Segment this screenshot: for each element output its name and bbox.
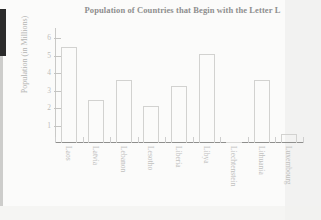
y-axis-label: Population (in Millions) bbox=[20, 0, 29, 115]
x-label-lesotho: Lesotho bbox=[147, 146, 155, 170]
x-label-lebanon: Lebanon bbox=[119, 146, 127, 172]
x-label-luxembourg: Luxembourg bbox=[285, 146, 293, 185]
x-label-laos: Laos bbox=[64, 146, 72, 161]
x-label-lithuania: Lithuania bbox=[257, 146, 265, 175]
bar-series bbox=[55, 28, 303, 143]
chart-canvas: Population of Countries that Begin with … bbox=[0, 0, 321, 220]
x-tick-9 bbox=[303, 137, 304, 143]
bar-lithuania bbox=[254, 80, 270, 143]
y-tick-label-6: 6 bbox=[40, 34, 51, 42]
y-tick-label-5: 5 bbox=[40, 52, 51, 60]
bar-lesotho bbox=[143, 106, 159, 143]
x-label-latvia: Latvia bbox=[92, 146, 100, 165]
bar-latvia bbox=[88, 100, 104, 143]
bar-luxembourg bbox=[281, 134, 297, 143]
bar-laos bbox=[61, 47, 77, 143]
y-tick-label-1: 1 bbox=[40, 122, 51, 130]
chart-title: Population of Countries that Begin with … bbox=[55, 5, 310, 15]
page-edge-light-strip bbox=[0, 56, 3, 206]
y-tick-label-3: 3 bbox=[40, 87, 51, 95]
x-label-liberia: Liberia bbox=[175, 146, 183, 168]
x-label-liechtenstein: Liechtenstein bbox=[230, 146, 238, 186]
y-tick-label-2: 2 bbox=[40, 104, 51, 112]
bar-libya bbox=[199, 54, 215, 143]
bar-liberia bbox=[171, 86, 187, 143]
x-axis-labels: LaosLatviaLebanonLesothoLiberiaLibyaLiec… bbox=[55, 146, 303, 216]
bar-lebanon bbox=[116, 80, 132, 143]
y-tick-label-4: 4 bbox=[40, 69, 51, 77]
x-label-libya: Libya bbox=[202, 146, 210, 164]
plot-area: 123456 bbox=[55, 28, 303, 143]
bar-liechtenstein bbox=[226, 142, 242, 144]
page-edge-dark-strip bbox=[0, 9, 6, 56]
